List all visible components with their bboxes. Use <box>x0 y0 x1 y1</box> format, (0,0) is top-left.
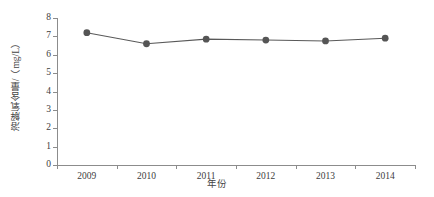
y-tick-label: 2 <box>46 124 51 134</box>
y-tick-label: 0 <box>46 160 51 170</box>
x-tick-mark <box>236 165 237 169</box>
y-tick-label: 5 <box>46 68 51 78</box>
x-tick-mark <box>176 165 177 169</box>
data-point <box>262 37 269 44</box>
x-tick-mark <box>355 165 356 169</box>
data-point <box>203 36 210 43</box>
x-axis-title: 年份 <box>0 176 434 190</box>
y-tick-label: 4 <box>46 87 51 97</box>
y-tick-label: 3 <box>46 105 51 115</box>
x-tick-mark <box>296 165 297 169</box>
data-point <box>322 38 329 45</box>
y-tick-label: 8 <box>46 13 51 23</box>
data-series-layer <box>57 18 415 165</box>
series-markers <box>83 29 388 47</box>
data-point <box>143 40 150 47</box>
data-point <box>382 35 389 42</box>
x-tick-mark <box>415 165 416 169</box>
y-tick-label: 7 <box>46 32 51 42</box>
y-axis-title-label: 溶解氧含量/（mg/L） <box>12 38 22 131</box>
x-tick-mark <box>57 165 58 169</box>
y-tick-label: 1 <box>46 142 51 152</box>
x-tick-mark <box>117 165 118 169</box>
plot-area: 012345678 200920102011201220132014 <box>57 18 415 165</box>
series-line <box>87 33 385 44</box>
y-axis-title: 溶解氧含量/（mg/L） <box>6 0 28 170</box>
chart-figure: 溶解氧含量/（mg/L） 012345678 20092010201120122… <box>0 0 434 197</box>
y-tick-label: 6 <box>46 50 51 60</box>
data-point <box>83 29 90 36</box>
